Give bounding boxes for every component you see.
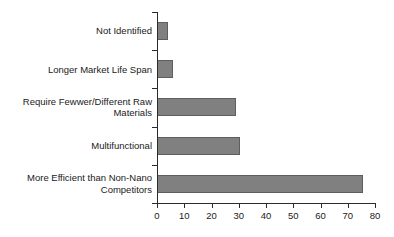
category-label-line: Require Fewwer/Different Raw — [23, 96, 152, 108]
category-label: Require Fewwer/Different RawMaterials — [10, 88, 152, 126]
x-axis-tick — [321, 203, 322, 208]
x-axis-tick — [212, 203, 213, 208]
bar-row — [157, 88, 375, 126]
x-axis-tick — [293, 203, 294, 208]
x-axis-tick-label: 60 — [309, 210, 333, 221]
bar-row — [157, 127, 375, 165]
category-label: Longer Market Life Span — [10, 50, 152, 88]
bar[interactable] — [157, 137, 240, 155]
bar[interactable] — [157, 98, 236, 116]
category-label: Not Identified — [10, 12, 152, 50]
x-axis-tick — [266, 203, 267, 208]
plot-area — [157, 12, 375, 203]
x-axis-tick-label: 70 — [336, 210, 360, 221]
x-axis-tick-label: 0 — [145, 210, 169, 221]
y-axis-line — [157, 12, 158, 203]
y-axis-tick — [152, 165, 157, 166]
bar-row — [157, 12, 375, 50]
bar[interactable] — [157, 175, 363, 193]
category-label: More Efficient than Non-NanoCompetitors — [10, 165, 152, 203]
category-label-line: Not Identified — [96, 25, 152, 37]
x-axis-tick — [157, 203, 158, 208]
x-axis-tick-label: 80 — [363, 210, 387, 221]
bar[interactable] — [157, 22, 168, 40]
x-axis-tick-label: 20 — [200, 210, 224, 221]
x-axis-tick-label: 40 — [254, 210, 278, 221]
category-label-line: Materials — [23, 107, 152, 119]
category-label-line: More Efficient than Non-Nano — [27, 172, 152, 184]
y-axis-tick — [152, 12, 157, 13]
y-axis-tick — [152, 50, 157, 51]
x-axis-tick — [375, 203, 376, 208]
category-label-line: Longer Market Life Span — [48, 64, 152, 76]
category-label-line: Competitors — [27, 184, 152, 196]
bar-row — [157, 165, 375, 203]
bar-chart: Not IdentifiedLonger Market Life SpanReq… — [0, 0, 394, 237]
x-axis-tick — [239, 203, 240, 208]
y-axis-tick — [152, 88, 157, 89]
x-axis-tick-label: 50 — [281, 210, 305, 221]
category-label: Multifunctional — [10, 127, 152, 165]
category-label-line: Multifunctional — [91, 140, 152, 152]
x-axis-tick — [184, 203, 185, 208]
y-axis-tick — [152, 127, 157, 128]
x-axis-tick-label: 30 — [227, 210, 251, 221]
bar[interactable] — [157, 60, 173, 78]
bar-row — [157, 50, 375, 88]
x-axis-tick — [348, 203, 349, 208]
x-axis-tick-label: 10 — [172, 210, 196, 221]
